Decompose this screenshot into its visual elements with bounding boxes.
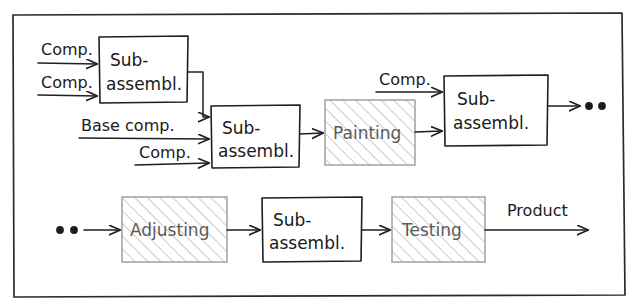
node-sub-assembly-2-line1: Sub- — [222, 118, 261, 138]
node-sub-assembly-3[interactable]: Sub- assembl. — [444, 75, 548, 146]
diagram-root: Sub- assembl. Sub- assembl. Painting — [0, 0, 634, 306]
arrow-comp-to-sub1-upper — [38, 63, 97, 64]
continuation-marker-left-bottom — [57, 227, 77, 233]
edge-label-comp-upper: Comp. — [379, 70, 431, 89]
edge-label-comp-mid: Comp. — [139, 143, 191, 162]
connector-sub1-to-sub2 — [188, 72, 209, 117]
node-painting[interactable]: Painting — [325, 100, 415, 165]
arrow-comp-to-sub1-lower — [38, 95, 97, 96]
node-sub-assembly-1-line1: Sub- — [110, 50, 149, 70]
connector-sub2-to-painting — [300, 133, 323, 134]
node-adjusting-label: Adjusting — [130, 220, 209, 240]
edge-label-comp-top-2: Comp. — [41, 73, 93, 92]
edge-label-comp-top-1: Comp. — [41, 40, 93, 59]
node-adjusting[interactable]: Adjusting — [122, 197, 227, 262]
edge-label-product: Product — [507, 201, 568, 220]
node-sub-assembly-3-line2: assembl. — [453, 113, 529, 133]
arrow-base-comp-to-sub2 — [79, 138, 209, 139]
node-sub-assembly-1[interactable]: Sub- assembl. — [99, 36, 188, 103]
connector-painting-to-sub3 — [415, 131, 442, 132]
flow-diagram-canvas: Sub- assembl. Sub- assembl. Painting — [0, 0, 634, 306]
node-sub-assembly-3-line1: Sub- — [457, 89, 496, 109]
node-sub-assembly-1-line2: assembl. — [106, 74, 182, 94]
node-sub-assembly-4-line2: assembl. — [269, 233, 345, 253]
arrow-comp-to-sub2 — [135, 163, 209, 165]
node-testing[interactable]: Testing — [392, 197, 485, 262]
node-painting-label: Painting — [333, 123, 401, 143]
node-testing-label: Testing — [401, 220, 462, 240]
node-sub-assembly-2[interactable]: Sub- assembl. — [211, 105, 300, 168]
node-sub-assembly-4[interactable]: Sub- assembl. — [262, 197, 362, 262]
node-sub-assembly-4-line1: Sub- — [273, 210, 312, 230]
node-sub-assembly-2-line2: assembl. — [218, 141, 294, 161]
continuation-marker-right-top — [586, 103, 605, 109]
edge-label-base-comp: Base comp. — [81, 116, 174, 135]
